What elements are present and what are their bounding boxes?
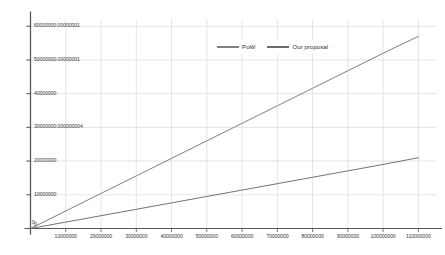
legend-label: Our proposal	[292, 44, 328, 50]
legend-label: PoW	[242, 44, 255, 50]
series-lines	[31, 36, 419, 228]
y-axis-tick-label: 30000000.000000004	[34, 124, 83, 129]
chart-legend: PoWOur proposal	[214, 40, 331, 54]
y-axis-tick-label: 20000000	[34, 158, 56, 163]
y-axis-tick-label: 40000000	[34, 91, 56, 96]
legend-item-pow[interactable]: PoW	[217, 44, 255, 50]
x-axis-tick-label: 0	[10, 220, 58, 225]
y-axis-tick-label: 10000000	[34, 192, 56, 197]
y-axis-tick-label: 60000000.00000001	[34, 23, 80, 28]
legend-line-swatch-icon	[267, 46, 289, 48]
x-axis-tick-label: 110000000	[394, 234, 442, 239]
legend-item-our-proposal[interactable]: Our proposal	[267, 44, 328, 50]
y-axis-tick-label: 50000000.00000001	[34, 57, 80, 62]
chart-container: 0100000002000000030000000.00000000440000…	[0, 0, 445, 255]
legend-line-swatch-icon	[217, 46, 239, 48]
